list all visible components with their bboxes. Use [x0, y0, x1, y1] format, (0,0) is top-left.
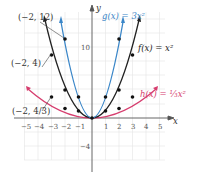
point-label-h: (−2, 4/3)	[12, 106, 50, 116]
point-label-f: (−2, 4)	[11, 58, 41, 68]
svg-text:2: 2	[117, 123, 121, 131]
svg-text:−1: −1	[75, 123, 85, 131]
svg-text:3: 3	[131, 123, 135, 131]
point-label-g: (−2, 12)	[18, 12, 53, 22]
x-axis-label: x	[173, 116, 178, 126]
y-tick-neg4: −4	[80, 143, 91, 151]
svg-text:5: 5	[158, 123, 162, 131]
parabola-graph: x y −5 −4 −3 −2 −1 1 2 3 4 5 10 −4	[0, 0, 198, 175]
grid	[24, 12, 165, 160]
svg-text:−3: −3	[48, 123, 58, 131]
svg-text:4: 4	[144, 123, 149, 131]
svg-text:−5: −5	[21, 123, 31, 131]
svg-text:−4: −4	[34, 123, 45, 131]
label-f: f(x) = x²	[137, 43, 174, 53]
y-tick-10: 10	[81, 44, 90, 52]
svg-text:−2: −2	[61, 123, 71, 131]
label-h: h(x) = ⅓x²	[140, 89, 186, 99]
svg-text:1: 1	[104, 123, 108, 131]
y-axis-label: y	[95, 3, 101, 13]
label-g: g(x) = 3x²	[102, 11, 146, 21]
